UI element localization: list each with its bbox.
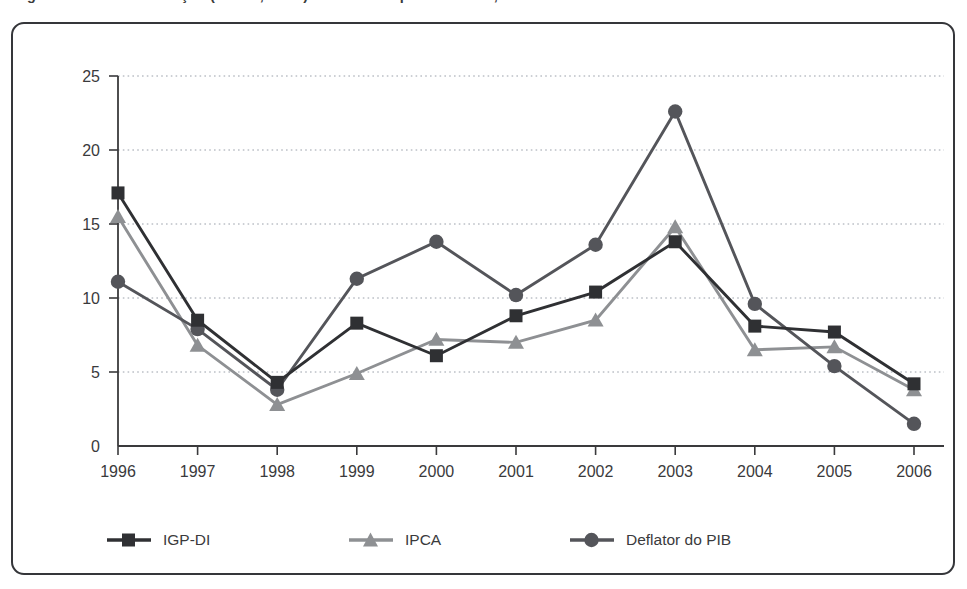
series-deflator-do-pib xyxy=(111,104,921,431)
line-chart-svg: 0510152025199619971998199920002001200220… xyxy=(13,24,957,577)
y-axis-tick-label: 0 xyxy=(91,438,100,455)
legend-label-deflator-do-pib: Deflator do PIB xyxy=(626,531,731,549)
data-point-marker xyxy=(748,320,761,333)
figure-caption-strip: Figura 1 - Taxas de inflação (IGP-DI, IP… xyxy=(0,0,967,13)
x-axis-tick-label: 1996 xyxy=(100,463,136,480)
data-point-marker xyxy=(271,376,284,389)
x-axis-tick-label: 2001 xyxy=(498,463,534,480)
legend-item-deflator-do-pib[interactable]: Deflator do PIB xyxy=(569,528,731,552)
legend-line-triangle-icon xyxy=(348,530,394,550)
data-point-marker xyxy=(111,275,125,289)
data-point-marker xyxy=(190,338,206,352)
x-axis-tick-label: 2006 xyxy=(896,463,932,480)
legend-line-circle-icon xyxy=(569,530,615,550)
data-point-marker xyxy=(668,104,682,118)
figure-caption: Figura 1 - Taxas de inflação (IGP-DI, IP… xyxy=(14,0,572,3)
x-axis-tick-label: 2005 xyxy=(817,463,853,480)
y-axis-tick-label: 15 xyxy=(82,216,100,233)
x-axis-tick-label: 2002 xyxy=(578,463,614,480)
data-point-marker xyxy=(510,309,523,322)
x-axis-tick-label: 1999 xyxy=(339,463,375,480)
data-point-marker xyxy=(589,286,602,299)
data-point-marker xyxy=(827,359,841,373)
data-point-marker xyxy=(110,209,126,223)
data-point-marker xyxy=(669,235,682,248)
y-axis-tick-label: 20 xyxy=(82,142,100,159)
legend-label-ipca: IPCA xyxy=(405,531,441,549)
data-point-marker xyxy=(112,186,125,199)
data-point-marker xyxy=(430,349,443,362)
data-point-marker xyxy=(349,366,365,380)
x-axis-tick-label: 2003 xyxy=(657,463,693,480)
data-point-marker xyxy=(588,238,602,252)
data-point-marker xyxy=(350,272,364,286)
data-point-marker xyxy=(191,314,204,327)
x-axis-tick-label: 2004 xyxy=(737,463,773,480)
data-point-marker xyxy=(509,288,523,302)
data-point-marker xyxy=(908,377,921,390)
data-point-marker xyxy=(429,235,443,249)
data-point-marker xyxy=(667,219,683,233)
y-axis-tick-label: 25 xyxy=(82,68,100,85)
data-point-marker xyxy=(748,297,762,311)
data-point-marker xyxy=(350,317,363,330)
legend-line-square-icon xyxy=(106,530,152,550)
y-axis-tick-label: 10 xyxy=(82,290,100,307)
x-axis-tick-label: 2000 xyxy=(419,463,455,480)
legend-item-igp-di[interactable]: IGP-DI xyxy=(106,528,210,552)
data-point-marker xyxy=(907,417,921,431)
x-axis-tick-label: 1997 xyxy=(180,463,216,480)
legend-item-ipca[interactable]: IPCA xyxy=(348,528,441,552)
x-axis-tick-label: 1998 xyxy=(259,463,295,480)
y-axis-tick-label: 5 xyxy=(91,364,100,381)
data-point-marker xyxy=(828,326,841,339)
chart-plot-area: 0510152025199619971998199920002001200220… xyxy=(13,24,957,577)
chart-legend: IGP-DI IPCA Deflator do PIB xyxy=(13,520,957,570)
series-line xyxy=(118,112,914,424)
legend-label-igp-di: IGP-DI xyxy=(163,531,210,549)
figure-frame: 0510152025199619971998199920002001200220… xyxy=(11,22,955,575)
